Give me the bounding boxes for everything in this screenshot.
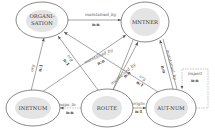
edge-inetnum-org: org n:1 bbox=[29, 38, 44, 91]
svg-text:ROUTE: ROUTE bbox=[97, 105, 117, 111]
edge-route-autnum-origin: origin n:1 bbox=[132, 101, 146, 114]
svg-text:n:1: n:1 bbox=[135, 109, 143, 114]
svg-text:origin: origin bbox=[132, 101, 145, 106]
svg-text:ORGANI-: ORGANI- bbox=[29, 13, 54, 19]
svg-text:n:1: n:1 bbox=[135, 80, 144, 88]
er-diagram: maintained_by n:n org n:1 org n:1 mainta… bbox=[0, 0, 215, 134]
node-route: ROUTE bbox=[81, 89, 133, 127]
svg-text:maps_to: maps_to bbox=[58, 102, 76, 107]
svg-text:n:n: n:n bbox=[66, 110, 74, 115]
svg-text:n:1: n:1 bbox=[37, 64, 44, 73]
svg-text:MNTNER: MNTNER bbox=[132, 19, 159, 25]
edge-route-org: org n:1 bbox=[58, 36, 98, 90]
svg-text:n:n: n:n bbox=[191, 78, 199, 83]
svg-text:SATION: SATION bbox=[31, 20, 53, 26]
svg-text:org: org bbox=[29, 64, 36, 73]
node-mntner: MNTNER bbox=[121, 2, 169, 42]
svg-text:AUT-NUM: AUT-NUM bbox=[156, 105, 185, 111]
edge-route-mntner-maintained-by: maintained_by n:n bbox=[109, 40, 138, 90]
svg-text:INETNUM: INETNUM bbox=[19, 105, 48, 111]
svg-text:n:n: n:n bbox=[160, 65, 167, 74]
node-organisation: ORGANI- SATION bbox=[16, 2, 68, 38]
node-inetnum: INETNUM bbox=[6, 90, 60, 126]
svg-text:maintained_by: maintained_by bbox=[165, 49, 178, 81]
svg-text:maintained_by: maintained_by bbox=[85, 12, 117, 17]
node-autnum: AUT-NUM bbox=[146, 89, 196, 127]
svg-text:n:n: n:n bbox=[92, 22, 100, 27]
edge-org-mntner-maintained-by: maintained_by n:n bbox=[68, 12, 121, 27]
svg-text:n:n: n:n bbox=[96, 58, 105, 66]
edge-route-inetnum-maps-to: maps_to n:n bbox=[58, 102, 81, 115]
svg-text:import: import bbox=[188, 71, 203, 76]
edge-autnum-mntner-maintained-by: maintained_by n:n bbox=[160, 39, 178, 89]
